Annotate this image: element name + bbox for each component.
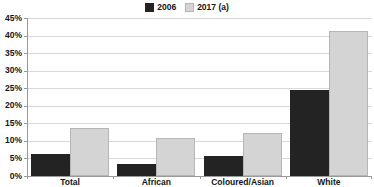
- legend-label-2017: 2017 (a): [197, 3, 229, 12]
- bar: [70, 128, 109, 176]
- bar: [329, 31, 368, 176]
- y-tick-label: 40%: [5, 31, 22, 40]
- bar: [117, 164, 156, 176]
- bar-chart: 2006 2017 (a) 0%5%10%15%20%25%30%35%40%4…: [0, 0, 374, 187]
- bar-group: [200, 18, 286, 176]
- x-tick-label: Total: [60, 178, 80, 187]
- y-tick-label: 30%: [5, 66, 22, 75]
- bar-group: [27, 18, 113, 176]
- y-tick-label: 20%: [5, 101, 22, 110]
- legend-swatch-2006: [145, 3, 154, 12]
- y-axis: 0%5%10%15%20%25%30%35%40%45%: [0, 0, 27, 187]
- legend-label-2006: 2006: [157, 3, 176, 12]
- bar: [156, 138, 195, 176]
- bar: [290, 90, 329, 176]
- bar: [31, 154, 70, 176]
- chart-legend: 2006 2017 (a): [0, 1, 374, 14]
- y-tick-label: 45%: [5, 14, 22, 23]
- bar-group: [113, 18, 199, 176]
- y-tick-label: 15%: [5, 119, 22, 128]
- y-tick-label: 35%: [5, 49, 22, 58]
- bars-layer: [27, 18, 372, 176]
- bar: [204, 156, 243, 176]
- legend-swatch-2017: [185, 3, 194, 12]
- x-tick-label: White: [317, 178, 340, 187]
- y-tick-label: 10%: [5, 136, 22, 145]
- y-tick-label: 5%: [10, 154, 22, 163]
- bar-group: [286, 18, 372, 176]
- y-tick-label: 25%: [5, 84, 22, 93]
- x-axis: TotalAfricanColoured/AsianWhite: [27, 178, 372, 187]
- legend-entry-2017: 2017 (a): [185, 3, 229, 12]
- x-tick-label: African: [142, 178, 171, 187]
- bar: [243, 133, 282, 176]
- y-tick-label: 0%: [10, 172, 22, 181]
- x-tick-label: Coloured/Asian: [211, 178, 274, 187]
- legend-entry-2006: 2006: [145, 3, 176, 12]
